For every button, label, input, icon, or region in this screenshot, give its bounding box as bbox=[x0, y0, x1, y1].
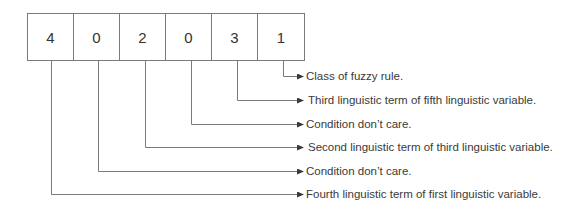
connector-cell-1 bbox=[52, 60, 304, 195]
connector-cell-3 bbox=[146, 60, 304, 148]
annotation-fourth-dont-care: Condition don’t care. bbox=[306, 117, 411, 131]
connector-cell-2 bbox=[99, 60, 304, 172]
connector-cell-6 bbox=[284, 60, 304, 77]
annotation-second-dont-care: Condition don’t care. bbox=[306, 164, 411, 178]
annotation-first-variable: Fourth linguistic term of first linguist… bbox=[306, 187, 541, 201]
annotation-third-variable: Second linguistic term of third linguist… bbox=[308, 140, 553, 154]
annotation-class: Class of fuzzy rule. bbox=[306, 69, 403, 83]
connector-cell-4 bbox=[192, 60, 304, 125]
annotation-fifth-variable: Third linguistic term of fifth linguisti… bbox=[308, 93, 536, 107]
connector-cell-5 bbox=[238, 60, 304, 101]
